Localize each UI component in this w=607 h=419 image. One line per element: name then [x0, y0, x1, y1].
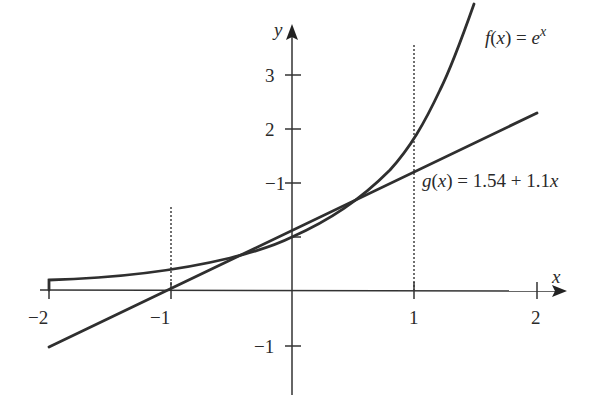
line-g-linear [49, 113, 537, 347]
x-tick-label: 2 [531, 307, 541, 328]
x-tick-label: −2 [28, 307, 48, 328]
y-tick-label: −1 [265, 173, 285, 194]
y-tick-label: 2 [265, 119, 275, 140]
x-tick-label: −1 [150, 307, 170, 328]
x-axis [40, 290, 560, 291]
x-axis-label: x [551, 266, 561, 287]
label-g: g(x) = 1.54 + 1.1x [422, 170, 559, 192]
x-tick-label: 1 [409, 307, 419, 328]
chart-canvas: x y −2 −1 1 2 3 2 −1 −1 f(x) = ex g(x) =… [0, 0, 607, 419]
y-axis-label: y [272, 19, 283, 40]
y-tick-label: 3 [265, 65, 275, 86]
label-f: f(x) = ex [485, 24, 547, 49]
y-tick-label: −1 [254, 336, 274, 357]
y-ticks [285, 75, 301, 346]
curve-f-exp [49, 4, 474, 290]
